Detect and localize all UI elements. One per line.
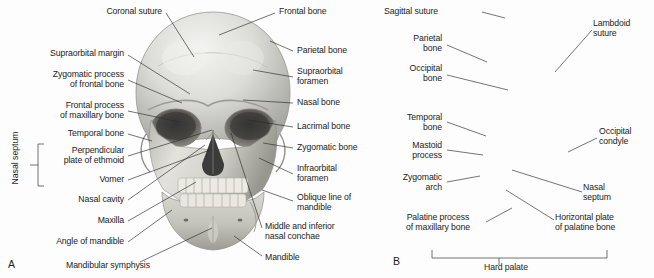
label-nasal-septum-bracket: Nasal septum	[10, 130, 20, 186]
label-occipital-condyle: Occipital condyle	[599, 126, 654, 146]
panel-letter-b: B	[393, 255, 400, 267]
label-vomer: Vomer	[16, 174, 124, 184]
panel-b-posterior-skull: Sagittal suture Parietal bone Occipital …	[380, 0, 654, 278]
label-middle-and-inferior-nasal-conchae: Middle and inferior nasal conchae	[265, 221, 397, 241]
label-supraorbital-margin: Supraorbital margin	[8, 48, 124, 58]
panel-letter-a: A	[8, 258, 15, 270]
label-nasal-cavity: Nasal cavity	[8, 194, 124, 204]
label-coronal-suture: Coronal suture	[46, 6, 162, 16]
label-maxilla: Maxilla	[8, 215, 124, 225]
label-temporal-bone-b: Temporal bone	[382, 112, 442, 132]
label-lambdoid-suture: Lambdoid suture	[593, 18, 653, 38]
label-angle-of-mandible: Angle of mandible	[8, 236, 124, 246]
label-mandible: Mandible	[265, 252, 365, 262]
label-temporal-bone: Temporal bone	[8, 128, 124, 138]
label-frontal-process-of-maxillary-bone: Frontal process of maxillary bone	[8, 100, 124, 120]
label-zygomatic-arch: Zygomatic arch	[382, 172, 442, 192]
label-horizontal-plate-of-palatine-bone: Horizontal plate of palatine bone	[555, 212, 653, 232]
label-mastoid-process: Mastoid process	[382, 140, 442, 160]
label-parietal-bone-b: Parietal bone	[382, 33, 442, 53]
label-nasal-septum-b: Nasal septum	[583, 182, 639, 202]
label-occipital-bone: Occipital bone	[382, 63, 442, 83]
label-mandibular-symphysis: Mandibular symphysis	[66, 260, 196, 270]
label-perpendicular-plate-of-ethmoid: Perpendicular plate of ethmoid	[16, 145, 124, 165]
label-palatine-process-of-maxillary-bone: Palatine process of maxillary bone	[390, 212, 486, 232]
label-hard-palate: Hard palate	[446, 262, 566, 272]
label-zygomatic-process-of-frontal-bone: Zygomatic process of frontal bone	[8, 69, 124, 89]
label-sagittal-suture: Sagittal suture	[384, 6, 480, 16]
anatomy-figure: Coronal suture Supraorbital margin Zygom…	[0, 0, 654, 278]
panel-a-anterior-skull: Coronal suture Supraorbital margin Zygom…	[0, 0, 400, 278]
